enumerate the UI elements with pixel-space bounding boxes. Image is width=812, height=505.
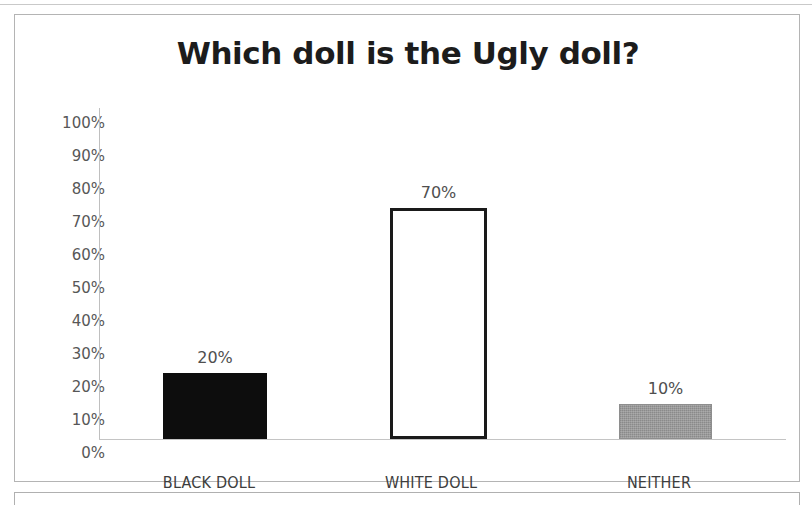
bar-slot-white-doll: 70% [390,108,487,439]
y-axis-tick-label: 70% [43,215,105,230]
x-axis-line [99,439,786,440]
plot-area: 20% 70% 10% [99,108,786,439]
bar-slot-black-doll: 20% [163,108,267,439]
page-top-rule [0,4,812,5]
bar-slot-neither: 10% [619,108,712,439]
y-axis-tick-label: 100% [43,116,105,131]
chart-title: Which doll is the Ugly doll? [15,35,801,71]
bar-white-doll[interactable] [390,208,487,439]
y-axis-tick-label: 90% [43,149,105,164]
y-axis-tick-label: 50% [43,281,105,296]
y-axis-line [99,108,100,439]
chart-frame: Which doll is the Ugly doll? 100% 90% 80… [14,14,800,482]
y-axis-tick-label: 10% [43,413,105,428]
bar-value-label: 70% [350,183,527,202]
x-axis-category-label-white-doll: WHITE DOLL [321,473,541,492]
y-axis-tick-label: 20% [43,380,105,395]
x-axis-category-label-neither: NEITHER [549,473,769,492]
bar-neither[interactable] [619,404,712,439]
bar-value-label: 20% [123,348,307,367]
y-axis-tick-label: 40% [43,314,105,329]
bar-black-doll[interactable] [163,373,267,439]
x-axis-category-label-black-doll: BLACK DOLL [99,473,319,492]
y-axis-tick-label: 60% [43,248,105,263]
lower-document-frame [14,492,800,505]
bar-value-label: 10% [579,379,752,398]
y-axis-tick-label: 30% [43,347,105,362]
y-axis-tick-label: 0% [43,446,105,461]
y-axis-tick-label: 80% [43,182,105,197]
